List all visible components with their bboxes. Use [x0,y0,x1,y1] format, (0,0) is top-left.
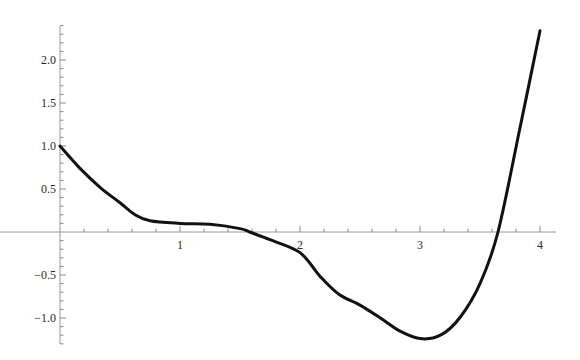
axis-ticks [60,26,540,344]
y-tick-label: 0.5 [41,182,56,196]
y-tick-label: −0.5 [34,268,56,282]
x-tick-label: 3 [417,238,423,252]
y-tick-label: 1.5 [41,96,56,110]
tick-labels: 12342.01.51.00.5−0.5−1.0 [34,53,543,325]
y-tick-label: 2.0 [41,53,56,67]
y-tick-label: 1.0 [41,139,56,153]
x-tick-label: 1 [177,238,183,252]
x-tick-label: 4 [537,238,543,252]
data-curve [60,31,540,339]
chart-plot: 12342.01.51.00.5−0.5−1.0 [0,0,580,360]
y-tick-label: −1.0 [34,311,56,325]
